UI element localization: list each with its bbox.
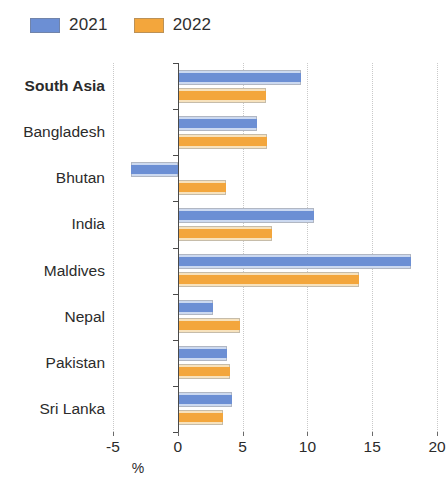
- x-tick-10: [307, 432, 308, 436]
- bar-sri-lanka-2021: [178, 392, 232, 407]
- category-label-south-asia: South Asia: [25, 77, 105, 95]
- bar-bhutan-2022: [178, 180, 226, 195]
- bar-fill: [178, 91, 266, 100]
- bar-fill: [178, 321, 240, 330]
- axis-title-percent: %: [0, 460, 444, 476]
- bar-track: [113, 300, 437, 315]
- bar-group-nepal: [113, 294, 437, 340]
- bar-chart: South AsiaBangladeshBhutanIndiaMaldivesN…: [0, 52, 444, 485]
- legend-swatch-2022: [134, 18, 164, 33]
- legend-entry-2022: 2022: [134, 15, 212, 35]
- bar-fill: [178, 229, 273, 238]
- category-tick: [173, 386, 178, 387]
- x-tick-label-20: 20: [428, 438, 445, 456]
- category-tick: [173, 155, 178, 156]
- bar-fill: [178, 367, 230, 376]
- category-label-maldives: Maldives: [44, 262, 105, 280]
- bar-south-asia-2022: [178, 88, 266, 103]
- zero-axis-line: [178, 63, 180, 432]
- bar-fill: [178, 73, 301, 82]
- category-axis-labels: South AsiaBangladeshBhutanIndiaMaldivesN…: [0, 63, 105, 432]
- bar-track: [113, 226, 437, 241]
- x-tick-label-10: 10: [299, 438, 316, 456]
- bar-track: [113, 346, 437, 361]
- bar-pakistan-2021: [178, 346, 227, 361]
- category-label-pakistan: Pakistan: [46, 354, 105, 372]
- bar-track: [113, 392, 437, 407]
- bar-group-pakistan: [113, 340, 437, 386]
- x-tick-label-5: 5: [238, 438, 247, 456]
- axis-title-percent-text: %: [132, 460, 144, 476]
- bar-fill: [178, 413, 223, 422]
- bar-track: [113, 272, 437, 287]
- category-label-bangladesh: Bangladesh: [23, 123, 105, 141]
- x-tick-0: [178, 432, 179, 436]
- chart-legend: 2021 2022: [30, 10, 211, 40]
- category-tick: [173, 201, 178, 202]
- bar-track: [113, 180, 437, 195]
- category-label-nepal: Nepal: [65, 308, 106, 326]
- bar-group-sri-lanka: [113, 386, 437, 432]
- bar-track: [113, 116, 437, 131]
- category-tick: [173, 109, 178, 110]
- bar-fill: [178, 349, 227, 358]
- bar-sri-lanka-2022: [178, 410, 223, 425]
- x-tick-label--5: -5: [106, 438, 120, 456]
- bar-bhutan-2021: [131, 162, 178, 177]
- x-tick-20: [437, 432, 438, 436]
- category-tick: [173, 432, 178, 433]
- bar-fill: [178, 275, 359, 284]
- category-label-india: India: [71, 215, 105, 233]
- bar-track: [113, 70, 437, 85]
- value-axis: -505101520: [113, 432, 437, 458]
- bar-track: [113, 88, 437, 103]
- plot-area: [113, 63, 437, 432]
- bar-group-south-asia: [113, 63, 437, 109]
- category-tick: [173, 294, 178, 295]
- legend-label-2021: 2021: [69, 15, 108, 35]
- bar-fill: [178, 257, 411, 266]
- bar-fill: [178, 211, 314, 220]
- x-tick-label-15: 15: [364, 438, 381, 456]
- bar-track: [113, 364, 437, 379]
- bar-india-2021: [178, 208, 314, 223]
- gridline-20: [437, 63, 439, 432]
- x-tick-5: [243, 432, 244, 436]
- bar-track: [113, 162, 437, 177]
- bar-track: [113, 134, 437, 149]
- bar-group-maldives: [113, 248, 437, 294]
- bar-fill: [131, 165, 178, 174]
- bar-maldives-2021: [178, 254, 411, 269]
- bar-fill: [178, 183, 226, 192]
- bar-fill: [178, 303, 213, 312]
- bar-bangladesh-2021: [178, 116, 257, 131]
- category-label-sri-lanka: Sri Lanka: [40, 400, 105, 418]
- bar-track: [113, 410, 437, 425]
- bar-maldives-2022: [178, 272, 359, 287]
- x-tick-15: [372, 432, 373, 436]
- bar-track: [113, 208, 437, 223]
- category-tick: [173, 248, 178, 249]
- x-tick-label-0: 0: [173, 438, 182, 456]
- legend-entry-2021: 2021: [30, 15, 108, 35]
- bar-bangladesh-2022: [178, 134, 267, 149]
- bar-fill: [178, 119, 257, 128]
- category-label-bhutan: Bhutan: [56, 169, 105, 187]
- bar-group-bhutan: [113, 155, 437, 201]
- bar-fill: [178, 395, 232, 404]
- bar-nepal-2021: [178, 300, 213, 315]
- bar-track: [113, 254, 437, 269]
- bar-india-2022: [178, 226, 273, 241]
- bar-south-asia-2021: [178, 70, 301, 85]
- legend-swatch-2021: [30, 18, 60, 33]
- category-tick: [173, 63, 178, 64]
- bar-nepal-2022: [178, 318, 240, 333]
- bar-track: [113, 318, 437, 333]
- bar-group-bangladesh: [113, 109, 437, 155]
- legend-label-2022: 2022: [173, 15, 212, 35]
- bar-fill: [178, 137, 267, 146]
- bar-pakistan-2022: [178, 364, 230, 379]
- x-tick--5: [113, 432, 114, 436]
- category-tick: [173, 340, 178, 341]
- bar-group-india: [113, 201, 437, 247]
